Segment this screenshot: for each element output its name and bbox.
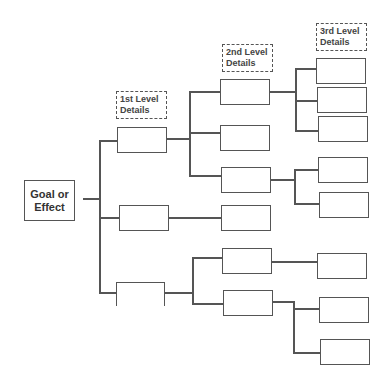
root-line1: Goal or xyxy=(30,188,69,200)
connector xyxy=(294,169,296,204)
level3-box-6 xyxy=(317,253,367,279)
connector xyxy=(192,257,222,259)
connector xyxy=(167,138,190,140)
level1-box-1 xyxy=(117,127,167,153)
connector xyxy=(192,257,194,304)
level3-box-3 xyxy=(318,116,368,142)
level2-label-line1: 2nd Level xyxy=(226,47,268,57)
level2-box-3 xyxy=(221,167,271,193)
connector xyxy=(295,100,317,102)
level3-box-2 xyxy=(317,87,367,113)
connector xyxy=(189,91,191,176)
connector xyxy=(293,308,319,310)
connector xyxy=(295,68,316,70)
level3-label-line2: Details xyxy=(320,37,350,47)
level3-box-8 xyxy=(320,339,370,365)
level3-box-4 xyxy=(318,157,368,183)
connector xyxy=(271,179,295,181)
connector xyxy=(295,130,318,132)
level3-box-1 xyxy=(316,58,366,84)
connector xyxy=(293,352,320,354)
connector xyxy=(189,91,220,93)
level2-box-1 xyxy=(220,79,270,105)
connector xyxy=(165,292,193,294)
connector xyxy=(294,203,319,205)
connector xyxy=(270,91,296,93)
connector xyxy=(99,217,119,219)
level2-label-line2: Details xyxy=(226,58,256,68)
level2-box-4 xyxy=(221,205,271,231)
level3-box-7 xyxy=(319,297,369,323)
connector xyxy=(189,132,220,134)
connector xyxy=(99,140,117,142)
level1-box-3 xyxy=(116,282,165,306)
root-line2: Effect xyxy=(34,201,65,213)
connector xyxy=(272,261,317,263)
level1-box-2 xyxy=(119,205,169,231)
level1-label: 1st LevelDetails xyxy=(116,91,167,119)
connector xyxy=(189,175,221,177)
connector xyxy=(192,303,223,305)
level2-label: 2nd LevelDetails xyxy=(222,44,273,72)
level1-label-line1: 1st Level xyxy=(120,94,159,104)
connector xyxy=(169,217,221,219)
connector xyxy=(294,169,318,171)
level3-label-line1: 3rd Level xyxy=(320,26,360,36)
connector xyxy=(99,292,116,294)
connector xyxy=(273,301,294,303)
level3-box-5 xyxy=(319,192,369,218)
level2-box-6 xyxy=(223,290,273,316)
level2-box-2 xyxy=(220,125,270,151)
level1-label-line2: Details xyxy=(120,105,150,115)
level2-box-5 xyxy=(222,248,272,274)
goal-or-effect-box: Goal orEffect xyxy=(24,180,75,221)
level3-label: 3rd LevelDetails xyxy=(316,23,367,51)
connector xyxy=(83,198,100,200)
